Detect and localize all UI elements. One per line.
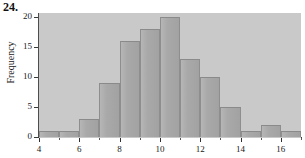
x-axis-tick-label-wrap: 8 bbox=[108, 144, 132, 155]
histogram-figure: 24. Frequency 05101520 46810121416 bbox=[0, 0, 305, 158]
y-axis-tick-label-wrap: 0 bbox=[8, 132, 32, 141]
y-axis-tick bbox=[34, 137, 38, 138]
x-axis-tick bbox=[241, 138, 242, 142]
y-axis-title: Frequency bbox=[5, 26, 16, 100]
plot-area bbox=[39, 13, 301, 138]
histogram-bar bbox=[79, 119, 99, 137]
x-axis-tick-label-wrap: 4 bbox=[27, 144, 51, 155]
x-axis-minor-tick bbox=[220, 138, 221, 140]
x-axis-tick bbox=[79, 138, 80, 142]
x-axis-tick-label: 16 bbox=[269, 144, 293, 155]
x-axis-minor-tick bbox=[59, 138, 60, 140]
histogram-bar bbox=[140, 29, 160, 137]
y-axis-tick-label: 10 bbox=[10, 72, 32, 81]
histogram-bar bbox=[220, 107, 240, 137]
y-axis-tick-label-wrap: 5 bbox=[8, 102, 32, 111]
x-axis-tick-label-wrap: 16 bbox=[269, 144, 293, 155]
x-axis-tick bbox=[160, 138, 161, 142]
histogram-bar bbox=[241, 131, 261, 137]
histogram-bar bbox=[39, 131, 59, 137]
x-axis-minor-tick bbox=[301, 138, 302, 140]
x-axis-tick-label-wrap: 12 bbox=[188, 144, 212, 155]
histogram-bar bbox=[59, 131, 79, 137]
x-axis-tick bbox=[120, 138, 121, 142]
x-axis-tick-label: 4 bbox=[27, 144, 51, 155]
y-axis-tick bbox=[34, 107, 38, 108]
histogram-bar bbox=[261, 125, 281, 137]
y-axis-tick-label-wrap: 15 bbox=[8, 42, 32, 51]
x-axis-minor-tick bbox=[261, 138, 262, 140]
y-axis-tick-label: 20 bbox=[10, 12, 32, 21]
x-axis-tick-label: 10 bbox=[148, 144, 172, 155]
histogram-bar bbox=[99, 83, 119, 137]
x-axis-tick-label: 12 bbox=[188, 144, 212, 155]
y-axis-tick-label: 0 bbox=[10, 132, 32, 141]
histogram-bar bbox=[120, 41, 140, 137]
y-axis-tick-label: 5 bbox=[10, 102, 32, 111]
histogram-bar bbox=[180, 59, 200, 137]
x-axis-minor-tick bbox=[140, 138, 141, 140]
y-axis-tick bbox=[34, 47, 38, 48]
x-axis-tick-label: 8 bbox=[108, 144, 132, 155]
x-axis-minor-tick bbox=[99, 138, 100, 140]
y-axis-tick-label: 15 bbox=[10, 42, 32, 51]
histogram-bar bbox=[160, 17, 180, 137]
x-axis-tick bbox=[200, 138, 201, 142]
histogram-bar bbox=[200, 77, 220, 137]
y-axis-tick-label-wrap: 10 bbox=[8, 72, 32, 81]
x-axis-tick-label-wrap: 14 bbox=[229, 144, 253, 155]
x-axis-tick bbox=[281, 138, 282, 142]
x-axis-tick bbox=[39, 138, 40, 142]
x-axis-tick-label: 6 bbox=[67, 144, 91, 155]
y-axis-tick bbox=[34, 17, 38, 18]
x-axis-tick-label-wrap: 6 bbox=[67, 144, 91, 155]
x-axis-tick-label: 14 bbox=[229, 144, 253, 155]
x-axis-minor-tick bbox=[180, 138, 181, 140]
y-axis-tick-label-wrap: 20 bbox=[8, 12, 32, 21]
histogram-bar bbox=[281, 131, 301, 137]
x-axis-tick-label-wrap: 10 bbox=[148, 144, 172, 155]
y-axis-tick bbox=[34, 77, 38, 78]
